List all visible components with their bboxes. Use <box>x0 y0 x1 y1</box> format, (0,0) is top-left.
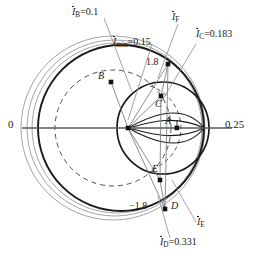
marker-e <box>158 178 163 183</box>
leader-i-b <box>104 18 132 92</box>
marker-origin <box>126 126 131 131</box>
label-i-min-subscript: min <box>116 41 127 49</box>
label-i-d-value: =0.331 <box>169 236 197 247</box>
label-i-c-symbol: I <box>196 29 199 39</box>
segment-f-d <box>165 64 168 209</box>
point-label-e: E <box>152 164 158 174</box>
label-i-b-value: =0.1 <box>80 6 98 17</box>
label-i-f: IF <box>172 12 179 24</box>
point-label-b: B <box>98 71 104 81</box>
label-i-min: Imin=0.15 <box>113 37 151 49</box>
label-i-e-symbol: I <box>197 217 200 227</box>
point-label-c: C <box>155 99 162 109</box>
chord-to-b <box>111 82 128 128</box>
label-i-f-symbol: I <box>172 12 175 22</box>
label-i-e: IE <box>197 217 205 229</box>
label-i-f-subscript: F <box>175 16 179 24</box>
label-slip-bottom: −1.8 <box>129 201 147 211</box>
marker-a <box>175 126 180 131</box>
axis-right-label: 0.25 <box>225 119 244 130</box>
label-i-b-symbol: I <box>72 7 75 17</box>
marker-f <box>166 62 171 67</box>
label-i-e-subscript: E <box>200 221 204 229</box>
marker-d <box>163 207 168 212</box>
axis-left-label: 0 <box>8 119 14 130</box>
chord-to-d <box>128 128 165 209</box>
point-label-d: D <box>171 201 178 211</box>
point-label-a: A <box>165 116 171 126</box>
marker-b <box>109 80 114 85</box>
label-i-c-value: =0.183 <box>204 28 232 39</box>
label-slip-top: 1.8 <box>146 57 159 67</box>
label-i-min-value: =0.15 <box>128 36 151 47</box>
label-i-min-symbol: I <box>113 37 116 47</box>
label-i-d-symbol: I <box>160 237 163 247</box>
label-i-c: IC=0.183 <box>196 29 232 41</box>
figure-canvas: 0 0.25 IB=0.1 Imin=0.15 IF IC=0.183 IE I… <box>0 0 256 254</box>
label-i-b: IB=0.1 <box>72 7 98 19</box>
label-i-d: ID=0.331 <box>160 237 197 249</box>
